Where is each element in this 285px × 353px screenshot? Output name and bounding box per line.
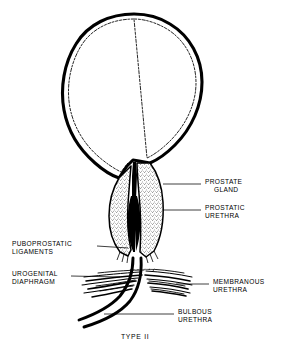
label-urogenital-diaphragm-line2: DIAPHRAGM bbox=[12, 278, 58, 286]
prostate-right-lobe bbox=[137, 163, 163, 257]
label-bulbous-urethra-line2: URETHRA bbox=[178, 316, 212, 324]
anatomical-figure: PROSTATE GLAND PROSTATIC URETHRA PUBOPRO… bbox=[0, 0, 285, 353]
bladder bbox=[63, 14, 203, 178]
label-prostate-gland-line2: GLAND bbox=[205, 186, 242, 194]
bladder-outer-wall bbox=[63, 14, 203, 178]
label-puboprostatic-ligaments-line1: PUBOPROSTATIC bbox=[12, 240, 72, 247]
urethra-posterior-wall bbox=[79, 258, 133, 320]
label-prostate-gland: PROSTATE GLAND bbox=[205, 178, 242, 195]
label-prostate-gland-line1: PROSTATE bbox=[205, 178, 242, 185]
label-prostatic-urethra-line2: URETHRA bbox=[205, 212, 245, 220]
label-prostatic-urethra: PROSTATIC URETHRA bbox=[205, 204, 245, 221]
label-bulbous-urethra: BULBOUS URETHRA bbox=[178, 308, 212, 325]
label-bulbous-urethra-line1: BULBOUS bbox=[178, 308, 212, 315]
label-membranous-urethra-line2: URETHRA bbox=[213, 286, 265, 294]
label-membranous-urethra: MEMBRANOUS URETHRA bbox=[213, 278, 265, 295]
label-puboprostatic-ligaments: PUBOPROSTATIC LIGAMENTS bbox=[12, 240, 72, 257]
prostate-left-lobe bbox=[109, 166, 131, 256]
anatomy-illustration bbox=[0, 0, 285, 353]
label-puboprostatic-ligaments-line2: LIGAMENTS bbox=[12, 248, 72, 256]
leader-urogenital-diaphragm bbox=[71, 276, 120, 277]
label-membranous-urethra-line1: MEMBRANOUS bbox=[213, 278, 265, 285]
label-urogenital-diaphragm: UROGENITAL DIAPHRAGM bbox=[12, 270, 58, 287]
label-urogenital-diaphragm-line1: UROGENITAL bbox=[12, 270, 58, 277]
figure-caption: TYPE II bbox=[121, 333, 149, 340]
label-prostatic-urethra-line1: PROSTATIC bbox=[205, 204, 245, 211]
